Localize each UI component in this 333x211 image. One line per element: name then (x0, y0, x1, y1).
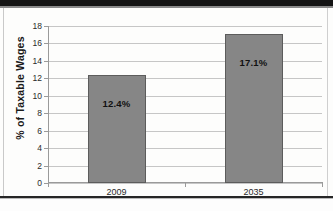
gridline (48, 26, 322, 27)
x-axis-tick-mark (322, 182, 323, 187)
y-axis-tick-label: 8 (2, 109, 42, 118)
bar[interactable]: 12.4% (88, 75, 146, 183)
y-axis-tick-label: 2 (2, 162, 42, 171)
y-axis-tick-label: 16 (2, 39, 42, 48)
x-axis-category-label: 2009 (48, 188, 185, 197)
bar-chart: % of Taxable Wages 024681012141618 12.4%… (0, 8, 333, 196)
scan-artifact-bottom-edge (0, 198, 333, 199)
x-axis-tick-mark (185, 182, 186, 187)
y-axis-tick-label: 18 (2, 22, 42, 31)
y-axis-tick-mark (44, 96, 48, 97)
y-axis-tick-mark (44, 113, 48, 114)
y-axis-tick-mark (44, 43, 48, 44)
y-axis-tick-label: 6 (2, 127, 42, 136)
bar-value-label: 17.1% (226, 57, 282, 68)
y-axis-tick-label: 4 (2, 144, 42, 153)
y-axis-tick-mark (44, 26, 48, 27)
x-axis-tick-mark (48, 182, 49, 187)
y-axis-tick-label: 12 (2, 74, 42, 83)
y-axis-tick-label: 14 (2, 57, 42, 66)
y-axis-tick-label: 0 (2, 179, 42, 188)
y-axis-tick-mark (44, 61, 48, 62)
x-axis-category-label: 2035 (185, 188, 322, 197)
y-axis-tick-mark (44, 131, 48, 132)
bar[interactable]: 17.1% (225, 34, 283, 183)
y-axis-tick-labels: 024681012141618 (0, 26, 42, 183)
y-axis-line (48, 26, 49, 183)
bar-value-label: 12.4% (89, 98, 145, 109)
y-axis-tick-label: 10 (2, 92, 42, 101)
y-axis-tick-mark (44, 166, 48, 167)
y-axis-tick-mark (44, 148, 48, 149)
y-axis-tick-mark (44, 78, 48, 79)
chart-page: % of Taxable Wages 024681012141618 12.4%… (0, 0, 333, 211)
